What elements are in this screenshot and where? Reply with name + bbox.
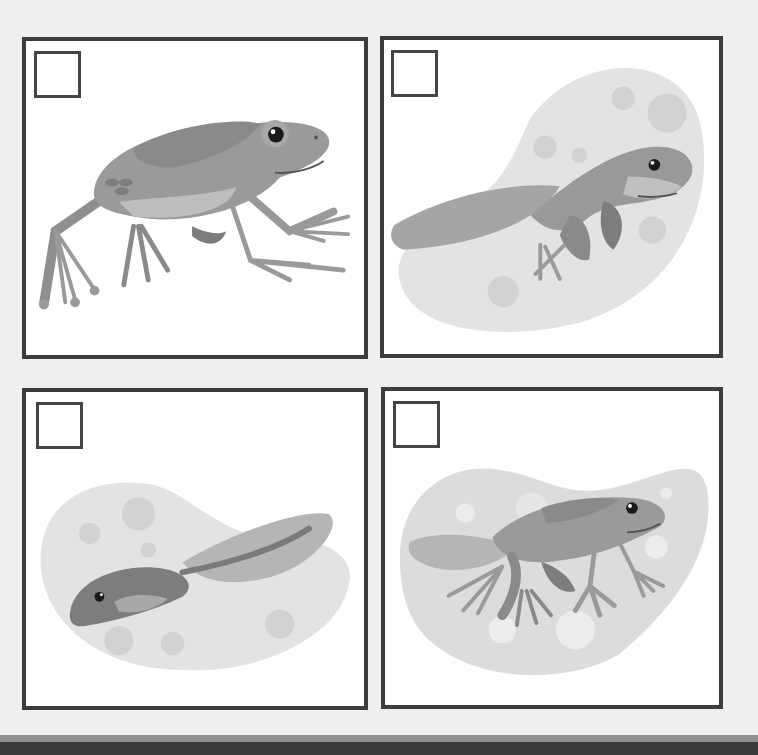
froglet-icon bbox=[385, 391, 719, 705]
panel-froglet bbox=[381, 387, 723, 709]
footer-bar bbox=[0, 742, 758, 755]
tadpole-icon bbox=[26, 392, 364, 706]
tadpole-with-legs-icon bbox=[384, 40, 719, 354]
adult-frog-icon bbox=[26, 41, 364, 355]
panel-tadpole-with-legs bbox=[380, 36, 723, 358]
panel-adult-frog bbox=[22, 37, 368, 359]
footer-strip bbox=[0, 735, 758, 742]
panel-tadpole bbox=[22, 388, 368, 710]
